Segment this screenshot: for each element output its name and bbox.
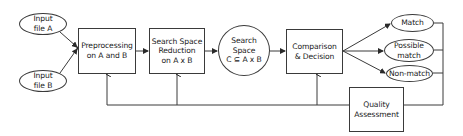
- node-search-space-reduction: Search Space Reduction on A x B: [149, 28, 205, 74]
- node-comparison-decision: Comparison & Decision: [286, 29, 343, 74]
- node-non-match: Non-match: [386, 65, 433, 82]
- node-preprocessing: Preprocessing on A and B: [78, 28, 136, 74]
- node-quality-assessment: Quality Assessment: [349, 87, 404, 132]
- edge-input-a-to-preprocessing: [60, 32, 77, 47]
- edge-comparison-to-match: [343, 24, 390, 51]
- node-possible-match: Possible match: [384, 39, 434, 62]
- record-linkage-diagram: Input file A Input file B Preprocessing …: [0, 0, 463, 136]
- edge-comparison-to-non-match: [343, 51, 385, 73]
- node-search-space: Search Space C ⊆ A x B: [218, 25, 270, 76]
- edge-input-b-to-preprocessing: [60, 49, 77, 73]
- node-input-file-b: Input file B: [19, 70, 67, 92]
- node-match: Match: [391, 14, 434, 32]
- node-input-file-a: Input file A: [19, 13, 67, 35]
